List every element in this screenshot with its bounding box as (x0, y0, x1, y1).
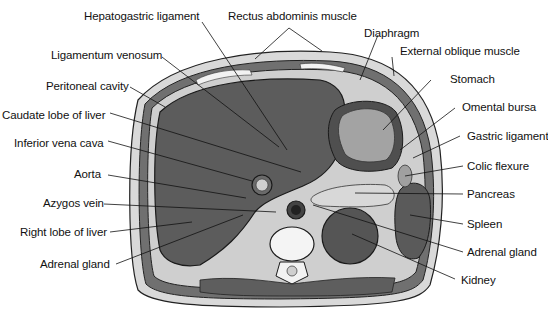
label-peritoneal-cavity: Peritoneal cavity (46, 80, 129, 93)
label-spleen: Spleen (467, 218, 502, 231)
label-adrenal-gland-left: Adrenal gland (40, 258, 110, 271)
label-adrenal-gland-right: Adrenal gland (467, 246, 537, 259)
label-gastric-ligament: Gastric ligament (467, 130, 548, 143)
label-aorta: Aorta (74, 168, 101, 181)
label-ligamentum-venosum: Ligamentum venosum (51, 49, 162, 62)
label-stomach: Stomach (450, 73, 495, 86)
label-diaphragm: Diaphragm (364, 27, 419, 40)
label-inferior-vena-cava: Inferior vena cava (14, 137, 104, 150)
label-pancreas: Pancreas (467, 188, 515, 201)
label-caudate-lobe-of-liver: Caudate lobe of liver (2, 109, 105, 122)
label-azygos-vein: Azygos vein (43, 197, 104, 210)
label-colic-flexure: Colic flexure (467, 160, 529, 173)
stomach-lumen (338, 109, 394, 162)
spleen (395, 183, 431, 259)
label-kidney: Kidney (461, 274, 496, 287)
label-right-lobe-of-liver: Right lobe of liver (20, 226, 107, 239)
label-hepatogastric-ligament: Hepatogastric ligament (84, 10, 199, 23)
vertebral-body (270, 227, 314, 261)
label-rectus-abdominis-muscle: Rectus abdominis muscle (228, 10, 357, 23)
label-omental-bursa: Omental bursa (462, 101, 536, 114)
anatomy-diagram: Hepatogastric ligament Ligamentum venosu… (0, 0, 548, 312)
label-external-oblique-muscle: External oblique muscle (400, 45, 520, 58)
